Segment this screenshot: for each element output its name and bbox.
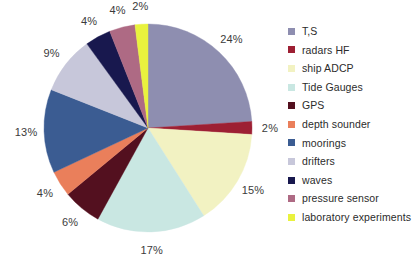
legend-item[interactable]: waves [288,171,414,190]
legend-item[interactable]: moorings [288,134,414,153]
legend-item-label: radars HF [302,45,350,56]
legend-item[interactable]: depth sounder [288,115,414,134]
legend-color-swatch-icon [288,102,295,109]
legend-item-label: GPS [302,100,324,111]
legend-item-label: waves [302,175,332,186]
legend-item-label: ship ADCP [302,63,354,74]
pie-slice-value-label: 4% [37,187,53,199]
pie-slice-value-label: 17% [140,244,163,256]
pie-plot-area: 24%2%15%17%6%4%13%9%4%4%2% [0,0,280,250]
legend-color-swatch-icon [288,214,295,221]
legend-item-label: laboratory experiments [302,212,411,223]
legend-color-swatch-icon [288,195,295,202]
legend-item-label: pressure sensor [302,193,379,204]
legend-color-swatch-icon [288,46,295,53]
legend-item-label: depth sounder [302,119,370,130]
legend-item[interactable]: ship ADCP [288,59,414,78]
pie-slice-value-label: 15% [242,184,265,196]
legend-item[interactable]: pressure sensor [288,189,414,208]
pie-slice-value-label: 2% [262,122,278,134]
pie-slice-value-label: 9% [43,47,59,59]
pie-slice-value-label: 4% [110,4,126,16]
legend-color-swatch-icon [288,177,295,184]
legend-color-swatch-icon [288,28,295,35]
legend-color-swatch-icon [288,121,295,128]
legend-item-label: T,S [302,26,317,37]
pie-slice-value-label: 6% [62,216,78,228]
legend-item-label: moorings [302,138,346,149]
legend-item[interactable]: laboratory experiments [288,208,414,227]
legend-item[interactable]: drifters [288,152,414,171]
legend-item-label: Tide Gauges [302,82,363,93]
legend-item[interactable]: GPS [288,96,414,115]
chart-legend: T,Sradars HFship ADCPTide GaugesGPSdepth… [288,22,414,227]
legend-color-swatch-icon [288,139,295,146]
legend-color-swatch-icon [288,158,295,165]
pie-slice-value-label: 13% [15,126,38,138]
pie-slice-value-label: 24% [220,33,243,45]
legend-item[interactable]: Tide Gauges [288,78,414,97]
pie-slice-group [44,24,252,232]
legend-color-swatch-icon [288,84,295,91]
legend-item[interactable]: T,S [288,22,414,41]
legend-color-swatch-icon [288,65,295,72]
pie-slice-value-label: 4% [81,15,97,27]
legend-item[interactable]: radars HF [288,41,414,60]
legend-item-label: drifters [302,156,335,167]
pie-slice-value-label: 2% [132,0,148,12]
